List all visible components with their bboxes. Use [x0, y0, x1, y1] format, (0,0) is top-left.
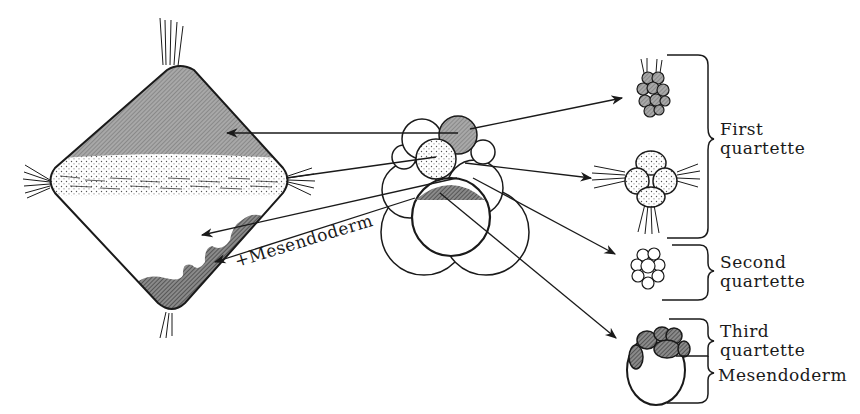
label-mesendoderm: Mesendoderm [718, 366, 847, 385]
label-third-quartette: Third quartette [720, 322, 805, 360]
prototroch-cells-figure [592, 151, 700, 234]
label-third-line1: Third [720, 322, 805, 341]
label-second-quartette: Second quartette [720, 253, 805, 291]
apical-rosette-figure [637, 58, 670, 117]
prototroch-cilia-left-icon [23, 165, 50, 198]
label-first-quartette: First quartette [720, 120, 805, 158]
label-third-line2: quartette [720, 341, 805, 360]
apical-tuft-icon [160, 18, 183, 66]
anal-tuft-icon [160, 312, 172, 338]
label-second-line1: Second [720, 253, 805, 272]
label-first-line1: First [720, 120, 805, 139]
label-first-line2: quartette [720, 139, 805, 158]
trochophore-larva [23, 18, 315, 338]
prototroch-cilia-right-icon [288, 168, 315, 195]
second-quartette-figure [631, 248, 665, 289]
third-quartette-figure [627, 327, 690, 405]
label-second-line2: quartette [720, 272, 805, 291]
